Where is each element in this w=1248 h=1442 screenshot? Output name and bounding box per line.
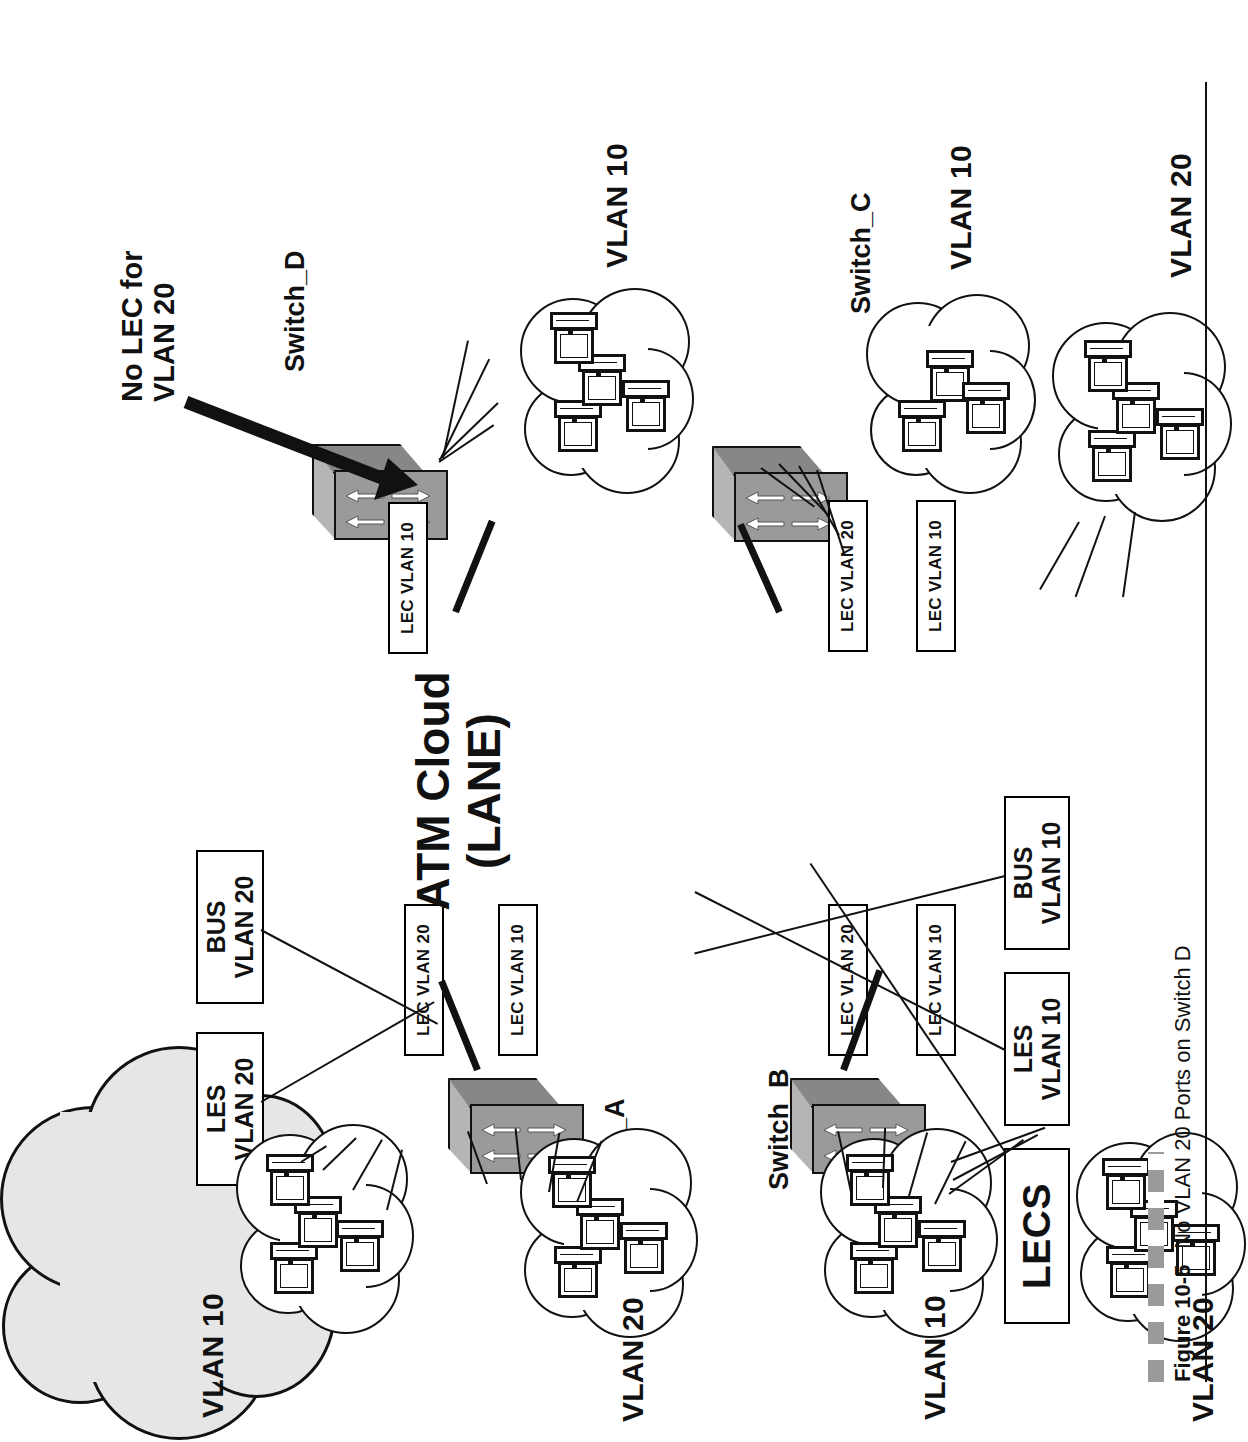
no-lec-line2: VLAN 20 [148, 251, 180, 402]
bus-vlan20-line1: BUS [202, 901, 230, 954]
vlan-cloud-a-vlan10 [236, 1122, 412, 1334]
caption-rule [1205, 82, 1207, 1382]
service-box-bus-vlan20: BUS VLAN 20 [196, 850, 264, 1004]
switch-d-label: Switch_D [280, 250, 311, 372]
bus-vlan20-line2: VLAN 20 [230, 876, 258, 979]
vlan-label-d-vlan10: VLAN 10 [600, 143, 634, 268]
vlan-cloud-c-vlan20 [1052, 310, 1230, 522]
figure-caption-text: No VLAN 20 Ports on Switch D [1170, 945, 1195, 1248]
vlan-label-b-vlan10: VLAN 10 [918, 1295, 952, 1420]
bus-vlan10-line1: BUS [1009, 847, 1037, 900]
figure-canvas: ATM Cloud (LANE) Switch_A LEC VLAN 20 LE… [0, 0, 1248, 1442]
service-box-lecs: LECS [1004, 1148, 1070, 1324]
vlan-cloud-a-vlan20 [520, 1126, 696, 1338]
service-box-les-vlan10: LES VLAN 10 [1004, 972, 1070, 1126]
bus-vlan10-line2: VLAN 10 [1037, 822, 1065, 925]
vlan-cloud-d-vlan10 [520, 286, 692, 494]
atm-cloud-label-line2: (LANE) [459, 595, 510, 987]
host-link [442, 340, 469, 458]
lec-label-b-vlan10: LEC VLAN 10 [916, 904, 956, 1056]
atm-cloud-label: ATM Cloud (LANE) [408, 595, 509, 987]
vlan-cloud-c-vlan10 [866, 294, 1032, 494]
lec-label-c-vlan10: LEC VLAN 10 [916, 500, 956, 652]
switch-b-label: Switch_B [764, 1068, 795, 1190]
service-box-bus-vlan10: BUS VLAN 10 [1004, 796, 1070, 950]
lec-label-b-vlan20: LEC VLAN 20 [828, 904, 868, 1056]
vlan-cloud-b-vlan10 [820, 1126, 996, 1338]
les-vlan20-line1: LES [202, 1085, 230, 1134]
no-lec-annotation: No LEC for VLAN 20 [116, 251, 181, 402]
vlan-label-a-vlan20: VLAN 20 [616, 1297, 650, 1422]
host-link [1075, 516, 1106, 597]
les-vlan10-line2: VLAN 10 [1037, 998, 1065, 1101]
caption-dash-rule [1148, 1152, 1164, 1382]
caption: Figure 10-5No VLAN 20 Ports on Switch D [1170, 945, 1196, 1382]
vlan-label-c-vlan10: VLAN 10 [944, 145, 978, 270]
vlan-label-c-vlan20: VLAN 20 [1164, 153, 1198, 278]
les-vlan10-line1: LES [1009, 1025, 1037, 1074]
host-link [1122, 512, 1136, 597]
figure-number: Figure 10-5 [1170, 1265, 1195, 1382]
vlan-label-a-vlan10: VLAN 10 [196, 1293, 230, 1418]
host-link [1039, 522, 1080, 591]
atm-cloud-label-line1: ATM Cloud [408, 595, 459, 987]
no-lec-line1: No LEC for [116, 251, 148, 402]
link-switch-a-atm [438, 980, 480, 1072]
